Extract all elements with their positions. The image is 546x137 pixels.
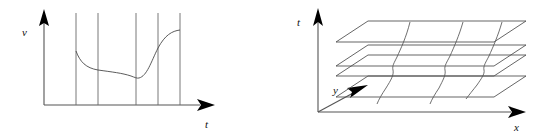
velocity-curve (76, 30, 180, 78)
v-axis-label: v (22, 26, 27, 38)
v-axis (39, 9, 49, 105)
world-line-1 (377, 22, 410, 104)
y-axis-3d (318, 85, 368, 112)
x-axis-3d (318, 106, 526, 118)
world-line-3 (466, 22, 502, 99)
t-axis-label: t (205, 118, 209, 130)
velocity-time-panel: v t (0, 0, 273, 137)
y-axis-arrowhead (347, 85, 368, 98)
spacetime-svg: t x y (273, 0, 546, 137)
x-axis-label: x (513, 121, 519, 133)
grid-lines (76, 13, 180, 105)
time-slice-plane-top (336, 21, 526, 42)
t-axis-3d (313, 8, 323, 112)
spacetime-panel: t x y (273, 0, 546, 137)
time-slice-plane-lower-middle (336, 55, 526, 76)
world-lines (377, 22, 502, 104)
y-axis-label: y (332, 84, 338, 96)
t-axis-label: t (297, 16, 301, 28)
velocity-time-svg: v t (0, 0, 273, 137)
t-axis (44, 99, 215, 111)
time-slice-plane-upper-middle (336, 45, 526, 66)
figure-root: v t (0, 0, 546, 137)
world-line-2 (430, 22, 463, 104)
